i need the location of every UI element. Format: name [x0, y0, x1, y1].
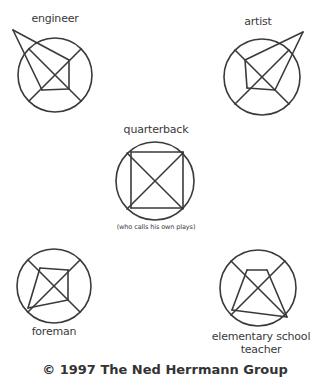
sublabel-quarterback: (who calls his own plays) [117, 224, 196, 231]
profile-line [245, 60, 247, 88]
diagram-engineer [13, 30, 92, 112]
diagram-foreman [17, 249, 91, 323]
profile-line [40, 268, 68, 270]
label-teacher: teacher [241, 344, 282, 355]
label-engineer: engineer [31, 13, 78, 24]
label-quarterback: quarterback [124, 124, 189, 135]
profile-line [232, 270, 247, 310]
profile-line [275, 32, 303, 90]
diagram-artist [224, 32, 303, 115]
label-artist: artist [244, 16, 271, 27]
profile-line [13, 30, 42, 90]
profile-line [232, 310, 287, 317]
label-elementary-school: elementary school [212, 331, 311, 342]
diagram-quarterback [116, 142, 194, 220]
label-foreman: foreman [32, 326, 77, 337]
profile-line [42, 89, 69, 90]
profile-line [13, 30, 69, 60]
copyright-notice: © 1997 The Ned Herrmann Group [42, 362, 288, 377]
diagram-elementary-school-teacher [220, 250, 296, 326]
